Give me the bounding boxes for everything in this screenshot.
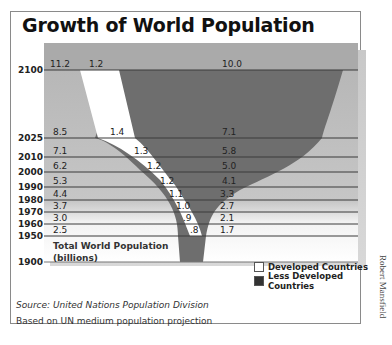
total-1980: 4.4 [53,189,68,199]
year-2000: 2000 [18,167,43,177]
year-1970: 1970 [18,207,43,217]
developed-1990: 1.2 [160,176,174,186]
legend: Developed Countries Less Developed Count… [254,260,392,288]
projection-note: Based on UN medium population projection [16,316,212,326]
developed-1970: 1.0 [176,201,191,211]
total-population-label: Total World Population (billions) [53,240,168,264]
less-developed-1950: 1.7 [220,225,234,235]
total-1950: 2.5 [53,225,67,235]
year-axis: 2100 2025 2010 2000 1990 1980 1970 1960 … [18,65,43,267]
year-1990: 1990 [18,182,43,192]
less-developed-1980: 3.3 [220,189,234,199]
year-2010: 2010 [18,152,43,162]
less-developed-2025: 7.1 [222,127,236,137]
developed-1950: .8 [190,225,199,235]
year-2100: 2100 [18,65,43,75]
developed-swatch-icon [254,262,264,272]
total-population-label-line2: (billions) [53,252,168,264]
total-2000: 6.2 [53,161,67,171]
total-population-label-line1: Total World Population [53,240,168,252]
total-2100: 11.2 [50,59,70,69]
year-1900: 1900 [18,257,43,267]
year-1980: 1980 [18,195,43,205]
total-2025: 8.5 [53,127,67,137]
less-developed-1960: 2.1 [220,213,234,223]
total-1960: 3.0 [53,213,68,223]
developed-2025: 1.4 [110,127,125,137]
developed-2100: 1.2 [89,59,103,69]
developed-2010: 1.3 [134,146,148,156]
source-caption: Source: United Nations Population Divisi… [16,300,209,310]
total-1990: 5.3 [53,176,67,186]
year-1950: 1950 [18,231,43,241]
total-1970: 3.7 [53,201,67,211]
less-developed-2000: 5.0 [222,161,237,171]
developed-2000: 1.2 [147,161,161,171]
total-2010: 7.1 [53,146,67,156]
less-developed-swatch-icon [254,276,264,286]
less-developed-1970: 2.7 [220,201,234,211]
population-chart: 2100 2025 2010 2000 1990 1980 1970 1960 … [0,0,392,345]
developed-1980: 1.1 [169,189,183,199]
year-2025: 2025 [18,133,43,143]
less-developed-2010: 5.8 [222,146,237,156]
less-developed-1990: 4.1 [222,176,236,186]
legend-label-less-developed: Less Developed Countries [268,271,392,291]
developed-1960: .9 [183,213,192,223]
legend-item-less-developed: Less Developed Countries [254,274,392,288]
year-1960: 1960 [18,219,43,229]
photo-credit: Robert Mansfield [378,255,388,318]
less-developed-2100: 10.0 [222,59,242,69]
